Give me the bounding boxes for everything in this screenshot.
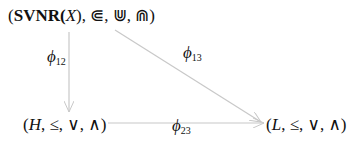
phi-symbol: ϕ [47, 47, 56, 66]
node-svnr: (SVNR(X), ⋐, ⋓, ⋒) [8, 7, 155, 24]
label-phi12: ϕ12 [47, 48, 66, 67]
phi-index: 23 [181, 125, 191, 136]
label-phi13: ϕ13 [183, 44, 202, 63]
phi-index: 13 [192, 52, 202, 63]
label-phi23: ϕ23 [172, 117, 191, 136]
node-h: (H, ≤, ∨, ∧) [23, 116, 106, 133]
var-h: H [29, 115, 41, 134]
var-l: L [272, 115, 281, 134]
node-l: (L, ≤, ∨, ∧) [266, 116, 347, 133]
operators: , ≤, ∨, ∧) [281, 115, 346, 134]
svnr-label: SVNR [14, 6, 60, 25]
var-x: X [66, 6, 76, 25]
operators: , ≤, ∨, ∧) [41, 115, 106, 134]
operators: ), ⋐, ⋓, ⋒) [76, 6, 155, 25]
phi-symbol: ϕ [183, 43, 192, 62]
phi-symbol: ϕ [172, 116, 181, 135]
phi-index: 12 [56, 56, 66, 67]
